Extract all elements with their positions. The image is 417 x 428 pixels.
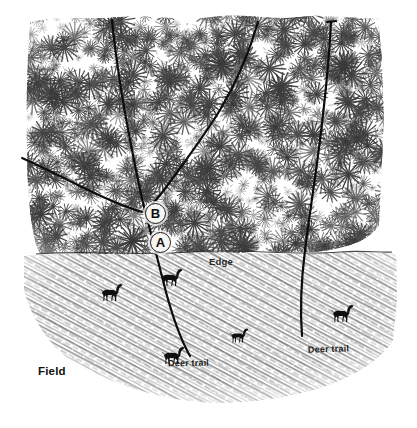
point-marker-a: A (150, 232, 171, 253)
point-marker-a-text: A (156, 235, 165, 250)
woods-region (9, 0, 403, 274)
deer-trail-label-right: Deer trail (308, 343, 349, 354)
deer-trail-label-left: Deer trail (168, 358, 209, 369)
field-label: Field (38, 365, 66, 377)
point-marker-b: B (145, 203, 166, 224)
edge-label: Edge (209, 256, 233, 267)
trail-right-terminus (327, 21, 336, 22)
point-marker-b-text: B (151, 206, 160, 221)
